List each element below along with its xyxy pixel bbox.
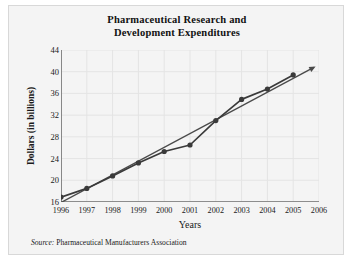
data-point-1998 xyxy=(110,173,115,178)
data-point-1996 xyxy=(61,195,64,200)
chart-figure: Pharmaceutical Research and Development … xyxy=(8,5,344,255)
source-note: Source: Pharmaceutical Manufacturers Ass… xyxy=(31,238,187,247)
data-point-1999 xyxy=(136,160,141,165)
source-text: Pharmaceutical Manufacturers Association xyxy=(56,238,186,247)
x-tick-2006: 2006 xyxy=(302,206,336,215)
data-point-2004 xyxy=(265,86,270,91)
data-point-2000 xyxy=(162,149,167,154)
x-axis-label: Years xyxy=(61,219,319,230)
data-point-2005 xyxy=(291,72,296,77)
data-point-2003 xyxy=(239,97,244,102)
chart-svg xyxy=(61,50,319,202)
data-point-1997 xyxy=(84,186,89,191)
source-prefix: Source: xyxy=(31,238,54,247)
data-point-2002 xyxy=(213,118,218,123)
data-point-2001 xyxy=(187,142,192,147)
plot-area xyxy=(61,50,319,202)
